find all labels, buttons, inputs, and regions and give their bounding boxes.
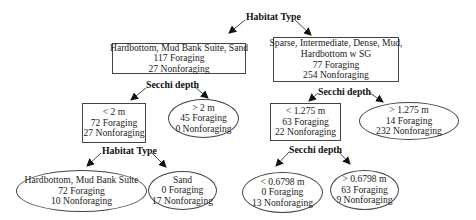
node-nonforaging-count: 9 Nonforaging bbox=[336, 195, 392, 206]
node-nonforaging-count: 13 Nonforaging bbox=[252, 198, 313, 209]
node-nonforaging-count: 27 Nonforaging bbox=[83, 128, 144, 139]
node-secchi-lt-1275m: < 1.275 m 63 Foraging 22 Nonforaging bbox=[270, 103, 341, 141]
node-habitat-hardbottom-mud-sand: Hardbottom, Mud Bank Suite, Sand 117 For… bbox=[112, 43, 246, 74]
secchi-left-split-label: Secchi depth bbox=[146, 79, 199, 90]
secchi-bottom-split-label: Secchi depth bbox=[289, 144, 342, 155]
node-nonforaging-count: 27 Nonforaging bbox=[148, 64, 209, 75]
node-nonforaging-count: 0 Nonforaging bbox=[175, 124, 231, 135]
node-secchi-gt-1275m: > 1.275 m 14 Foraging 232 Nonforaging bbox=[359, 102, 459, 140]
node-nonforaging-count: 10 Nonforaging bbox=[51, 196, 112, 207]
node-secchi-lt-2m: < 2 m 72 Foraging 27 Nonforaging bbox=[82, 103, 146, 143]
node-secchi-lt-06798m: < 0.6798 m 0 Foraging 13 Nonforaging bbox=[242, 172, 323, 213]
node-habitat-hardbottom-mudbank: Hardbottom, Mud Bank Suite 72 Foraging 1… bbox=[16, 170, 147, 212]
node-nonforaging-count: 232 Nonforaging bbox=[376, 126, 442, 137]
node-habitat-sand: Sand 0 Foraging 17 Nonforaging bbox=[148, 171, 217, 210]
habitat-bottom-split-label: Habitat Type bbox=[102, 145, 157, 156]
node-secchi-gt-2m: > 2 m 45 Foraging 0 Nonforaging bbox=[168, 99, 239, 138]
node-nonforaging-count: 254 Nonforaging bbox=[303, 70, 369, 81]
secchi-right-split-label: Secchi depth bbox=[318, 86, 371, 97]
node-nonforaging-count: 17 Nonforaging bbox=[152, 196, 213, 207]
node-habitat-seagrass-mud: Sparse, Intermediate, Dense, Mud, Hardbo… bbox=[273, 37, 399, 82]
node-condition-cont: Hardbottom w SG bbox=[301, 49, 371, 60]
node-nonforaging-count: 22 Nonforaging bbox=[275, 127, 336, 138]
root-split-label: Habitat Type bbox=[246, 11, 301, 22]
decision-tree-diagram: Habitat Type Hardbottom, Mud Bank Suite,… bbox=[0, 0, 476, 220]
node-secchi-gt-06798m: > 0.6798 m 63 Foraging 9 Nonforaging bbox=[330, 170, 399, 210]
